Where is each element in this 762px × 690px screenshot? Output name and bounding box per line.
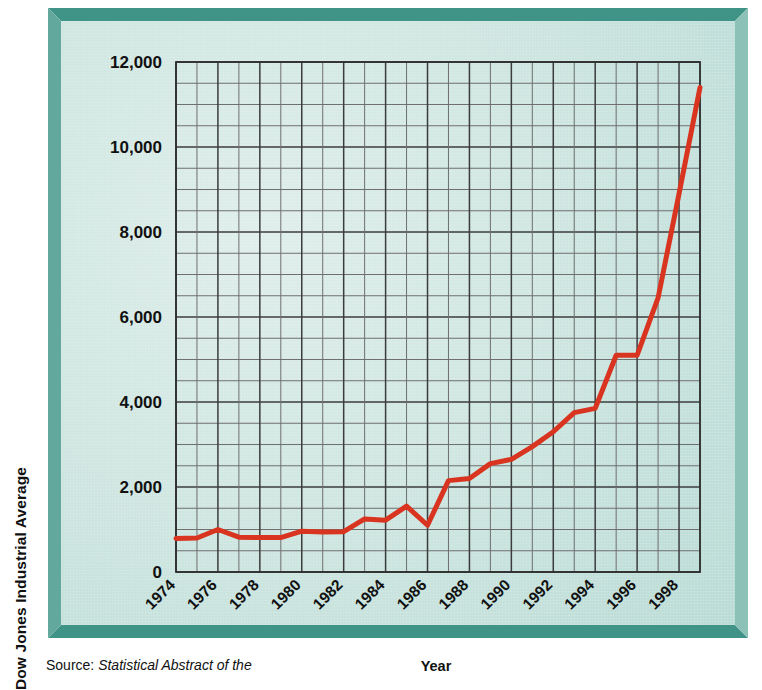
y-tick-label: 0 (153, 563, 162, 582)
x-tick-label: 1974 (142, 576, 179, 613)
x-tick-label: 1980 (267, 576, 303, 612)
x-axis-title: Year (421, 658, 452, 674)
x-tick-label: 1988 (435, 576, 472, 613)
y-tick-label: 10,000 (110, 138, 162, 157)
x-tick-label: 1992 (519, 576, 555, 612)
x-tick-label: 1984 (351, 576, 388, 613)
y-tick-label: 12,000 (110, 53, 162, 72)
source-title: Statistical Abstract of the (98, 657, 252, 673)
y-tick-label: 4,000 (119, 393, 162, 412)
grid-lines (176, 62, 700, 572)
source-note: Source: Statistical Abstract of the (46, 657, 252, 673)
x-tick-label: 1978 (226, 576, 263, 613)
x-tick-label: 1986 (393, 576, 430, 613)
x-tick-label: 1976 (184, 576, 221, 613)
series-line (176, 88, 700, 539)
x-tick-label: 1990 (477, 576, 513, 612)
y-tick-label: 2,000 (119, 478, 162, 497)
source-prefix: Source: (46, 657, 98, 673)
y-tick-labels: 02,0004,0006,0008,00010,00012,000 (110, 53, 162, 582)
x-tick-label: 1994 (561, 576, 598, 613)
x-tick-label: 1998 (645, 576, 682, 613)
x-tick-labels: 1974197619781980198219841986198819901992… (142, 576, 682, 613)
y-tick-label: 6,000 (119, 308, 162, 327)
x-tick-label: 1982 (309, 576, 345, 612)
x-tick-label: 1996 (603, 576, 640, 613)
y-tick-label: 8,000 (119, 223, 162, 242)
